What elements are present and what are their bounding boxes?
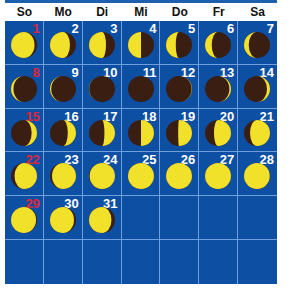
moon-phase-icon bbox=[49, 206, 77, 234]
day-cell: 1 bbox=[5, 21, 44, 65]
day-cell: 19 bbox=[160, 109, 199, 153]
empty-cell bbox=[238, 196, 277, 240]
moon-phase-icon bbox=[204, 75, 232, 103]
day-cell: 4 bbox=[122, 21, 161, 65]
moon-phase-icon bbox=[88, 31, 116, 59]
empty-cell bbox=[199, 196, 238, 240]
day-cell: 12 bbox=[160, 65, 199, 109]
moon-phase-icon bbox=[204, 119, 232, 147]
moon-calendar-grid: 1234567891011121314151617181920212223242… bbox=[5, 21, 277, 284]
moon-phase-icon bbox=[49, 75, 77, 103]
moon-phase-icon bbox=[10, 119, 38, 147]
empty-cell bbox=[238, 240, 277, 284]
empty-cell bbox=[199, 240, 238, 284]
day-cell: 26 bbox=[160, 152, 199, 196]
top-strip bbox=[5, 0, 277, 3]
day-cell: 7 bbox=[238, 21, 277, 65]
moon-phase-icon bbox=[127, 75, 155, 103]
day-cell: 5 bbox=[160, 21, 199, 65]
weekday-sunday: So bbox=[5, 4, 44, 21]
weekday-wednesday: Mi bbox=[122, 4, 161, 21]
moon-phase-icon bbox=[204, 31, 232, 59]
moon-phase-icon bbox=[127, 162, 155, 190]
moon-phase-icon bbox=[243, 31, 271, 59]
moon-phase-icon bbox=[10, 206, 38, 234]
weekday-friday: Fr bbox=[199, 4, 238, 21]
day-cell: 30 bbox=[44, 196, 83, 240]
moon-phase-icon bbox=[10, 75, 38, 103]
moon-phase-icon bbox=[10, 162, 38, 190]
moon-phase-icon bbox=[49, 119, 77, 147]
day-cell: 9 bbox=[44, 65, 83, 109]
moon-phase-icon bbox=[204, 162, 232, 190]
moon-phase-icon bbox=[10, 31, 38, 59]
empty-cell bbox=[160, 240, 199, 284]
empty-cell bbox=[44, 240, 83, 284]
day-cell: 21 bbox=[238, 109, 277, 153]
day-cell: 22 bbox=[5, 152, 44, 196]
moon-phase-icon bbox=[243, 119, 271, 147]
moon-phase-icon bbox=[243, 75, 271, 103]
day-cell: 8 bbox=[5, 65, 44, 109]
day-cell: 25 bbox=[122, 152, 161, 196]
day-cell: 17 bbox=[83, 109, 122, 153]
empty-cell bbox=[5, 240, 44, 284]
moon-phase-icon bbox=[88, 75, 116, 103]
moon-phase-icon bbox=[165, 31, 193, 59]
day-cell: 18 bbox=[122, 109, 161, 153]
weekday-tuesday: Di bbox=[83, 4, 122, 21]
weekday-thursday: Do bbox=[160, 4, 199, 21]
empty-cell bbox=[122, 240, 161, 284]
day-cell: 20 bbox=[199, 109, 238, 153]
moon-phase-icon bbox=[49, 31, 77, 59]
moon-phase-icon bbox=[165, 119, 193, 147]
moon-phase-icon bbox=[88, 206, 116, 234]
weekday-header: So Mo Di Mi Do Fr Sa bbox=[5, 4, 277, 21]
day-cell: 27 bbox=[199, 152, 238, 196]
day-cell: 31 bbox=[83, 196, 122, 240]
moon-phase-icon bbox=[49, 162, 77, 190]
weekday-saturday: Sa bbox=[238, 4, 277, 21]
day-cell: 11 bbox=[122, 65, 161, 109]
moon-phase-icon bbox=[165, 162, 193, 190]
day-cell: 24 bbox=[83, 152, 122, 196]
day-cell: 13 bbox=[199, 65, 238, 109]
moon-phase-icon bbox=[165, 75, 193, 103]
day-cell: 16 bbox=[44, 109, 83, 153]
day-cell: 15 bbox=[5, 109, 44, 153]
day-cell: 29 bbox=[5, 196, 44, 240]
day-cell: 10 bbox=[83, 65, 122, 109]
day-cell: 28 bbox=[238, 152, 277, 196]
weekday-monday: Mo bbox=[44, 4, 83, 21]
day-cell: 3 bbox=[83, 21, 122, 65]
empty-cell bbox=[83, 240, 122, 284]
empty-cell bbox=[122, 196, 161, 240]
empty-cell bbox=[160, 196, 199, 240]
moon-phase-icon bbox=[243, 162, 271, 190]
moon-phase-icon bbox=[88, 162, 116, 190]
day-cell: 6 bbox=[199, 21, 238, 65]
moon-phase-icon bbox=[127, 31, 155, 59]
day-cell: 23 bbox=[44, 152, 83, 196]
day-cell: 14 bbox=[238, 65, 277, 109]
moon-phase-icon bbox=[127, 119, 155, 147]
moon-phase-icon bbox=[88, 119, 116, 147]
day-cell: 2 bbox=[44, 21, 83, 65]
